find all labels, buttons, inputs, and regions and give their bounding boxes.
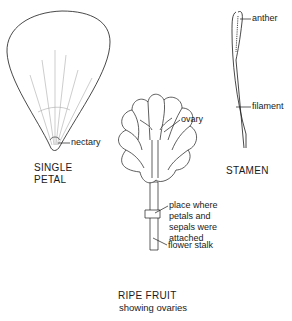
caption-ripe-fruit-subtitle: showing ovaries <box>119 303 187 314</box>
caption-single-petal-line2: PETAL <box>34 174 66 186</box>
stamen-drawing <box>232 11 246 148</box>
petal-drawing <box>7 11 110 151</box>
caption-single-petal-line1: SINGLE <box>34 162 72 174</box>
diagram-artwork <box>0 0 292 321</box>
label-flower-stalk: flower stalk <box>168 240 213 251</box>
label-attachment-place: place where petals and sepals were attac… <box>169 200 218 244</box>
label-filament: filament <box>252 101 284 112</box>
label-nectary: nectary <box>71 137 101 148</box>
caption-stamen: STAMEN <box>226 165 269 177</box>
label-ovary: ovary <box>181 114 203 125</box>
label-anther: anther <box>252 13 278 24</box>
caption-ripe-fruit-title: RIPE FRUIT <box>118 290 177 302</box>
